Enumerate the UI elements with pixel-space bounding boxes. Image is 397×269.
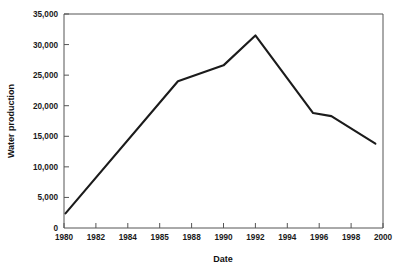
chart-background <box>0 0 397 269</box>
x-tick-label: 1982 <box>87 233 106 242</box>
y-tick-label: 30,000 <box>33 41 58 50</box>
x-tick-label: 1984 <box>119 233 138 242</box>
x-tick-label: 2000 <box>374 233 393 242</box>
x-tick-label: 1996 <box>310 233 329 242</box>
y-axis-title: Water production <box>6 84 16 158</box>
y-tick-label: 0 <box>53 224 58 233</box>
x-tick-label: 1990 <box>214 233 233 242</box>
x-tick-label: 1980 <box>55 233 74 242</box>
x-tick-label: 1998 <box>342 233 361 242</box>
x-axis-title: Date <box>213 254 233 264</box>
x-tick-label: 1985 <box>151 233 170 242</box>
y-tick-label: 15,000 <box>33 132 58 141</box>
x-tick-label: 1988 <box>182 233 201 242</box>
line-chart: 05,00010,00015,00020,00025,00030,00035,0… <box>0 0 397 269</box>
y-tick-label: 25,000 <box>33 71 58 80</box>
y-tick-label: 10,000 <box>33 163 58 172</box>
y-tick-label: 35,000 <box>33 10 58 19</box>
x-tick-label: 1992 <box>246 233 265 242</box>
y-tick-label: 5,000 <box>38 193 59 202</box>
x-tick-label: 1994 <box>278 233 297 242</box>
chart-canvas: 05,00010,00015,00020,00025,00030,00035,0… <box>0 0 397 269</box>
y-tick-label: 20,000 <box>33 102 58 111</box>
